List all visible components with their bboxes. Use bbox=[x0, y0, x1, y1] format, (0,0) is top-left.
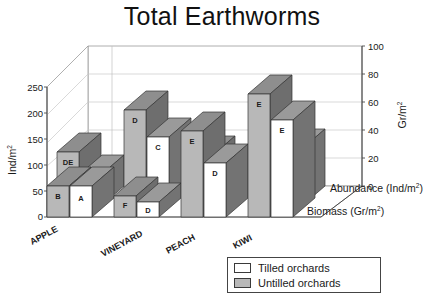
depth-label-abundance: Abundance (Ind/m2) bbox=[330, 182, 423, 194]
x-tick-kiwi: KIWI bbox=[231, 233, 253, 251]
y-axis-right: 100 80 60 40 20 0 Gr/m2 bbox=[362, 41, 408, 192]
x-tick-apple: APPLE bbox=[28, 224, 59, 247]
bar-label: B bbox=[55, 192, 61, 201]
bar-label: D bbox=[132, 116, 138, 125]
y-axis-left: 250 200 150 100 50 0 Ind/m2 bbox=[6, 82, 47, 222]
y-tick-left-150: 150 bbox=[27, 134, 43, 145]
x-tick-vineyard: VINEYARD bbox=[99, 228, 144, 259]
bar-kiwi-biomass-tilled[interactable]: E bbox=[271, 101, 315, 217]
y-axis-right-title: Gr/m2 bbox=[396, 101, 408, 128]
bar-label: E bbox=[256, 100, 261, 109]
x-axis-categories: APPLE VINEYARD PEACH KIWI bbox=[28, 224, 253, 259]
chart-container: Total Earthworms bbox=[0, 0, 444, 299]
x-tick-peach: PEACH bbox=[164, 232, 197, 256]
y-axis-left-title: Ind/m2 bbox=[6, 145, 18, 175]
y-tick-right-20: 20 bbox=[368, 153, 379, 164]
bar-label: DE bbox=[63, 158, 73, 167]
bar-label: C bbox=[155, 143, 161, 152]
legend-item-untilled[interactable]: Untilled orchards bbox=[234, 277, 374, 289]
legend-item-tilled[interactable]: Tilled orchards bbox=[234, 262, 374, 274]
y-tick-left-200: 200 bbox=[27, 108, 43, 119]
bar-label: F bbox=[123, 201, 128, 210]
bar-label: E bbox=[279, 126, 284, 135]
legend-swatch-tilled-icon bbox=[234, 263, 251, 273]
y-tick-left-100: 100 bbox=[27, 160, 43, 171]
y-tick-right-60: 60 bbox=[368, 97, 379, 108]
y-tick-left-0: 0 bbox=[38, 211, 43, 222]
y-tick-right-80: 80 bbox=[368, 69, 379, 80]
bar-label: A bbox=[78, 194, 84, 203]
chart-plot-area: 250 200 150 100 50 0 Ind/m2 100 80 60 40… bbox=[0, 0, 444, 299]
legend-swatch-untilled-icon bbox=[234, 278, 251, 288]
y-tick-left-50: 50 bbox=[32, 186, 43, 197]
bar-label: E bbox=[189, 137, 194, 146]
bar-label: D bbox=[145, 206, 151, 215]
bar-label: D bbox=[212, 169, 218, 178]
y-tick-left-250: 250 bbox=[27, 82, 43, 93]
depth-label-biomass: Biomass (Gr/m2) bbox=[307, 205, 384, 217]
y-tick-right-100: 100 bbox=[368, 41, 384, 52]
y-tick-right-40: 40 bbox=[368, 125, 379, 136]
legend-label-untilled: Untilled orchards bbox=[258, 277, 341, 289]
chart-legend: Tilled orchards Untilled orchards bbox=[227, 257, 381, 293]
legend-label-tilled: Tilled orchards bbox=[258, 262, 330, 274]
